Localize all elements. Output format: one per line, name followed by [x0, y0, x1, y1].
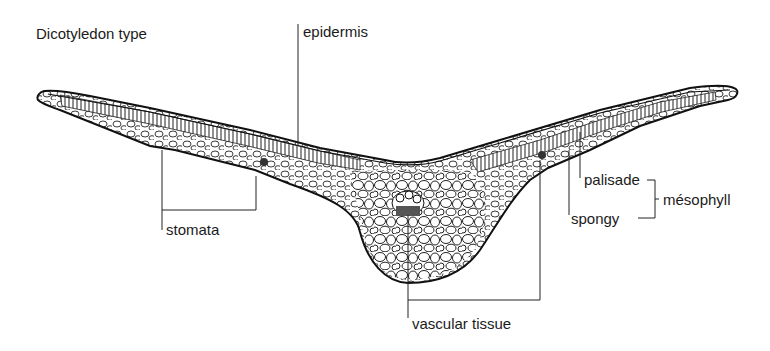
stoma-mark-right: [538, 151, 546, 159]
leaf-section-diagram: Dicotyledon type epidermis stomata vascu…: [0, 0, 770, 351]
leaf-cross-section-drawing: [0, 0, 770, 351]
label-epidermis: epidermis: [303, 24, 368, 39]
label-stomata: stomata: [166, 222, 219, 237]
label-palisade: palisade: [584, 172, 640, 187]
label-mesophyll: mésophyll: [663, 192, 731, 207]
stomata-bracket: [162, 176, 256, 210]
stoma-mark-left: [260, 158, 268, 166]
vascular-bundle: [392, 191, 424, 216]
label-vascular-tissue: vascular tissue: [412, 316, 511, 331]
label-spongy: spongy: [571, 211, 619, 226]
palisade-layer-right: [470, 92, 716, 172]
diagram-title: Dicotyledon type: [36, 26, 147, 41]
mesophyll-bracket: [638, 180, 655, 218]
